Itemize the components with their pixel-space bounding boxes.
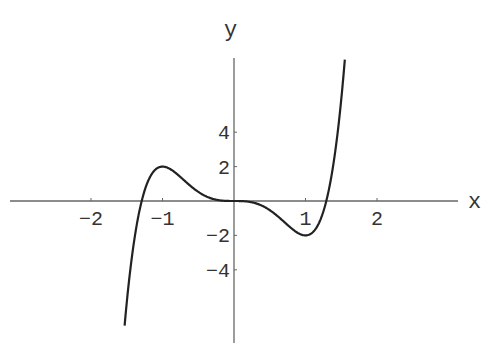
x-tick-label: −2 [79, 208, 103, 231]
x-axis-label: x [468, 190, 481, 215]
y-tick-label: 4 [218, 122, 230, 145]
x-ticks: −2−112 [79, 198, 383, 231]
plot-area: −2−112 42−2−4 x y [0, 0, 495, 352]
x-tick-label: −1 [150, 208, 174, 231]
y-tick-label: −2 [206, 225, 230, 248]
function-curve [125, 60, 345, 326]
y-tick-label: −4 [206, 260, 230, 283]
y-axis-label: y [224, 18, 237, 43]
x-tick-label: 1 [299, 208, 311, 231]
x-tick-label: 2 [371, 208, 383, 231]
y-ticks: 42−2−4 [206, 122, 237, 283]
y-tick-label: 2 [218, 157, 230, 180]
